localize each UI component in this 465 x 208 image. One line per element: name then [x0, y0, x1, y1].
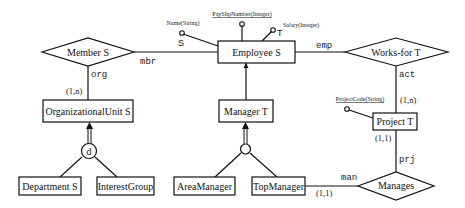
attribute-salary-icon [271, 28, 276, 33]
er-diagram: Member S Works-for T Manages Employee S … [0, 0, 465, 208]
entity-organizational-unit[interactable]: OrganizationalUnit S [43, 100, 133, 122]
svg-text:d: d [87, 146, 92, 157]
arrowhead-icon [242, 122, 249, 129]
entity-interest-group[interactable]: InterestGroup [97, 177, 154, 195]
attribute-salary-label: Salary(Integer) [283, 22, 319, 29]
relationship-member[interactable]: Member S [42, 38, 134, 66]
role-prj: prj [399, 155, 415, 165]
entity-top-manager[interactable]: TopManager [252, 177, 305, 195]
role-org: org [91, 70, 107, 80]
entity-project[interactable]: Project T [373, 113, 417, 130]
attribute-name-tag: S [178, 38, 184, 48]
attribute-projectcode-icon [345, 107, 350, 112]
svg-text:AreaManager: AreaManager [177, 181, 233, 192]
generalization-marker [241, 144, 251, 154]
entity-manager[interactable]: Manager T [219, 100, 273, 122]
attribute-name-label: Name(String) [167, 20, 200, 27]
arrowhead-icon [86, 122, 93, 129]
svg-text:Manages: Manages [378, 180, 414, 191]
entity-employee[interactable]: Employee S [218, 41, 295, 63]
relationship-works-for[interactable]: Works-for T [345, 38, 448, 66]
role-act: act [399, 70, 415, 80]
role-emp: emp [316, 41, 332, 51]
generalization-disjoint-marker: d [82, 144, 97, 159]
attribute-payslip-label: PaySlipNumber(Integer) [212, 11, 271, 18]
cardinality-topmanager-manages: (1,1) [316, 188, 332, 198]
svg-text:InterestGroup: InterestGroup [98, 181, 154, 192]
cardinality-project-manages: (1,1) [375, 133, 391, 143]
entity-area-manager[interactable]: AreaManager [174, 177, 235, 195]
cardinality-org-member: (1,n) [66, 86, 82, 96]
relationship-manages[interactable]: Manages [358, 172, 434, 200]
svg-text:Employee S: Employee S [232, 47, 281, 58]
attribute-name-icon [180, 31, 185, 36]
role-man: man [341, 173, 357, 183]
attribute-payslip-icon [240, 22, 245, 27]
attribute-salary-tag: T [277, 28, 283, 38]
svg-text:TopManager: TopManager [253, 181, 305, 192]
entity-department[interactable]: Department S [19, 177, 81, 195]
attribute-projectcode-label: ProjectCode(String) [336, 96, 384, 103]
svg-text:Manager T: Manager T [224, 106, 268, 117]
svg-text:Department S: Department S [22, 181, 77, 192]
svg-text:Member S: Member S [67, 47, 109, 58]
svg-text:OrganizationalUnit S: OrganizationalUnit S [45, 106, 130, 117]
arrowhead-icon [244, 63, 249, 68]
svg-text:Project T: Project T [377, 116, 414, 127]
svg-text:Works-for T: Works-for T [371, 47, 420, 58]
cardinality-project-worksfor: (1,n) [400, 95, 416, 105]
role-mbr: mbr [140, 57, 156, 67]
